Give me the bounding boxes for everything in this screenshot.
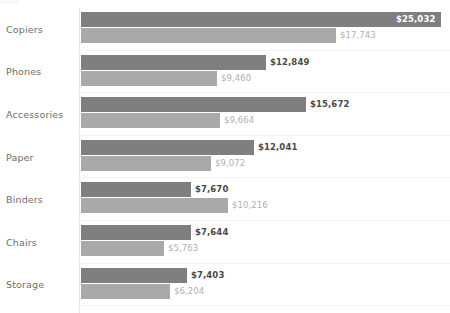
- bar-wrap-primary: $12,041: [81, 140, 450, 155]
- bar-group: $7,644$5,763: [81, 225, 450, 259]
- row-gridline: [79, 305, 450, 306]
- bar-value-label-primary: $12,849: [270, 55, 309, 70]
- bar-value-label-primary: $12,041: [258, 140, 297, 155]
- bar-secondary[interactable]: [81, 156, 211, 171]
- bar-wrap-secondary: $9,664: [81, 113, 450, 128]
- chart-row: Accessories$15,672$9,664: [0, 93, 450, 136]
- category-label-copiers: Copiers: [6, 8, 76, 51]
- bar-primary[interactable]: [81, 97, 306, 112]
- bar-group: $7,403$6,204: [81, 268, 450, 302]
- category-label-chairs: Chairs: [6, 221, 76, 264]
- bar-value-label-secondary: $9,072: [215, 156, 245, 171]
- chart-row: Storage$7,403$6,204: [0, 264, 450, 307]
- bar-value-label-secondary: $6,204: [174, 284, 204, 299]
- bar-primary[interactable]: [81, 268, 187, 283]
- bar-wrap-secondary: $5,763: [81, 241, 450, 256]
- bar-value-label-primary: $7,403: [191, 268, 224, 283]
- bar-wrap-secondary: $10,216: [81, 198, 450, 213]
- bar-group: $12,849$9,460: [81, 55, 450, 89]
- category-label-accessories: Accessories: [6, 93, 76, 136]
- bar-wrap-secondary: $6,204: [81, 284, 450, 299]
- bar-wrap-primary: $12,849: [81, 55, 450, 70]
- bar-value-label-secondary: $10,216: [232, 198, 268, 213]
- bar-value-label-primary: $15,672: [310, 97, 349, 112]
- chart-row: Copiers$25,032$17,743: [0, 8, 450, 51]
- bar-value-label-secondary: $9,460: [221, 71, 251, 86]
- bar-wrap-secondary: $9,460: [81, 71, 450, 86]
- bar-wrap-secondary: $9,072: [81, 156, 450, 171]
- bar-secondary[interactable]: [81, 28, 336, 43]
- bar-wrap-primary: $25,032: [81, 12, 450, 27]
- bar-primary[interactable]: [81, 140, 254, 155]
- bar-wrap-primary: $7,403: [81, 268, 450, 283]
- bar-secondary[interactable]: [81, 241, 164, 256]
- bar-primary[interactable]: [81, 225, 191, 240]
- bar-wrap-primary: $15,672: [81, 97, 450, 112]
- bar-group: $15,672$9,664: [81, 97, 450, 131]
- bar-group: $12,041$9,072: [81, 140, 450, 174]
- bar-wrap-primary: $7,644: [81, 225, 450, 240]
- bar-primary[interactable]: [81, 182, 191, 197]
- category-label-paper: Paper: [6, 136, 76, 179]
- bar-value-label-primary: $25,032: [396, 12, 435, 27]
- bar-value-label-secondary: $17,743: [340, 28, 376, 43]
- category-label-storage: Storage: [6, 264, 76, 307]
- chart-row: Binders$7,670$10,216: [0, 178, 450, 221]
- bar-primary[interactable]: [81, 55, 266, 70]
- bar-primary[interactable]: [81, 12, 441, 27]
- bar-value-label-secondary: $5,763: [168, 241, 198, 256]
- chart-row: Phones$12,849$9,460: [0, 51, 450, 94]
- category-label-binders: Binders: [6, 178, 76, 221]
- bar-secondary[interactable]: [81, 198, 228, 213]
- bar-value-label-primary: $7,670: [195, 182, 228, 197]
- bar-secondary[interactable]: [81, 113, 220, 128]
- clipped-header-label: Sales: [0, 0, 46, 5]
- category-label-phones: Phones: [6, 51, 76, 94]
- bar-value-label-primary: $7,644: [195, 225, 228, 240]
- chart-rows: Copiers$25,032$17,743Phones$12,849$9,460…: [0, 8, 450, 306]
- bar-secondary[interactable]: [81, 71, 217, 86]
- bar-wrap-secondary: $17,743: [81, 28, 450, 43]
- bar-wrap-primary: $7,670: [81, 182, 450, 197]
- bar-value-label-secondary: $9,664: [224, 113, 254, 128]
- chart-row: Paper$12,041$9,072: [0, 136, 450, 179]
- chart-row: Chairs$7,644$5,763: [0, 221, 450, 264]
- bar-secondary[interactable]: [81, 284, 170, 299]
- bar-group: $25,032$17,743: [81, 12, 450, 46]
- bar-group: $7,670$10,216: [81, 182, 450, 216]
- bar-chart: Sales Copiers$25,032$17,743Phones$12,849…: [0, 0, 450, 313]
